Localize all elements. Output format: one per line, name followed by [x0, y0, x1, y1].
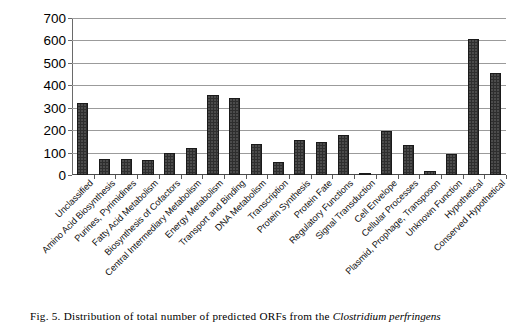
y-tick-label: 600: [43, 33, 66, 48]
bar-chart: 0100200300400500600700: [72, 18, 506, 175]
y-tick-label: 0: [58, 168, 66, 183]
x-axis-labels: UnclassifiedAmino Acid BiosynthesisPurin…: [72, 176, 514, 304]
caption-species: Clostridium perfringens: [333, 310, 441, 322]
bar: [142, 160, 153, 175]
bar: [294, 140, 305, 175]
bar: [490, 73, 501, 175]
y-tick-label: 700: [43, 11, 66, 26]
caption-prefix: Fig. 5. Distribution of total number of …: [30, 310, 333, 322]
bar: [164, 153, 175, 175]
figure-caption: Fig. 5. Distribution of total number of …: [30, 309, 490, 323]
bar: [403, 145, 414, 175]
y-tick-label: 100: [43, 145, 66, 160]
bar: [381, 131, 392, 175]
bar: [77, 103, 88, 175]
bar: [207, 95, 218, 175]
y-tick-label: 400: [43, 78, 66, 93]
figure-container: 0100200300400500600700 UnclassifiedAmino…: [0, 0, 514, 328]
bar: [359, 173, 370, 175]
bar: [229, 98, 240, 175]
bar: [446, 154, 457, 175]
bars-layer: [72, 18, 506, 175]
bar: [338, 135, 349, 175]
bar: [468, 39, 479, 175]
bar: [186, 148, 197, 175]
y-tick-label: 300: [43, 100, 66, 115]
bar: [424, 171, 435, 175]
bar: [99, 159, 110, 175]
bar: [121, 159, 132, 175]
bar: [273, 162, 284, 175]
bar: [316, 142, 327, 175]
bar: [251, 144, 262, 175]
y-tick-label: 500: [43, 55, 66, 70]
y-tick-label: 200: [43, 123, 66, 138]
